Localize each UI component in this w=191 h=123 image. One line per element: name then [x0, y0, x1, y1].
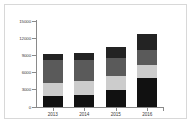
bar-2016 — [137, 21, 157, 107]
bar-segment-segment-3 — [106, 58, 126, 76]
y-axis-tick-label: 9000 — [22, 53, 31, 58]
y-axis-tick-mark — [32, 89, 36, 90]
bar-2013 — [43, 21, 63, 107]
bar-segment-segment-3 — [43, 60, 63, 83]
bar-2015 — [106, 21, 126, 107]
x-axis-tick-label: 2014 — [72, 112, 96, 118]
bar-segment-segment-1 — [74, 95, 94, 107]
x-axis-line — [36, 107, 164, 108]
x-axis-tick-label: 2013 — [41, 112, 65, 118]
y-axis-tick-mark — [32, 72, 36, 73]
bar-segment-segment-1 — [43, 96, 63, 107]
bar-segment-segment-2 — [74, 81, 94, 95]
y-axis-tick-mark — [32, 38, 36, 39]
plot-area — [37, 21, 163, 107]
y-axis-tick-mark — [32, 55, 36, 56]
bar-segment-segment-2 — [43, 83, 63, 96]
bar-segment-segment-2 — [137, 65, 157, 78]
bar-segment-segment-3 — [74, 60, 94, 81]
y-axis-tick-label: 12000 — [19, 36, 31, 41]
x-axis-tick-label: 2015 — [104, 112, 128, 118]
x-axis-tick-mark — [116, 108, 117, 111]
chart-screenshot: 15000120009000600030000 2013201420152016 — [0, 0, 191, 123]
y-axis-tick-mark — [32, 21, 36, 22]
y-axis-tick-label: 3000 — [22, 87, 31, 92]
bar-segment-segment-4 — [74, 53, 94, 60]
bar-segment-segment-4 — [137, 34, 157, 50]
y-axis-tick-label: 15000 — [19, 19, 31, 24]
y-axis-tick-mark — [32, 107, 36, 108]
bar-segment-segment-1 — [137, 78, 157, 107]
x-axis-tick-mark — [163, 108, 164, 111]
bar-segment-segment-2 — [106, 76, 126, 90]
x-axis-tick-mark — [53, 108, 54, 111]
x-axis-tick-label: 2016 — [135, 112, 159, 118]
bar-segment-segment-4 — [43, 54, 63, 60]
y-axis-tick-label: 0 — [29, 105, 31, 110]
x-axis-tick-mark — [147, 108, 148, 111]
bar-2014 — [74, 21, 94, 107]
chart-frame: 15000120009000600030000 2013201420152016 — [4, 4, 187, 119]
bar-segment-segment-1 — [106, 90, 126, 107]
bar-segment-segment-3 — [137, 50, 157, 65]
y-axis-tick-label: 6000 — [22, 70, 31, 75]
bar-segment-segment-4 — [106, 47, 126, 58]
x-axis-tick-mark — [84, 108, 85, 111]
y-axis-tick-labels: 15000120009000600030000 — [5, 5, 31, 123]
